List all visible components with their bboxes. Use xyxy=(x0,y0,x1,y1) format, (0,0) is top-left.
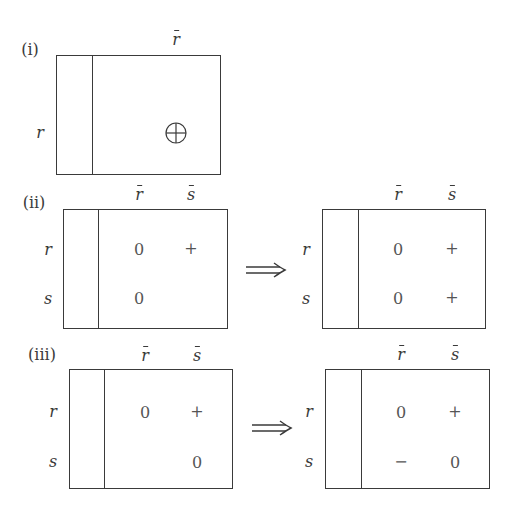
column-header-s-bar: s xyxy=(451,347,459,363)
cell-s-sbar: 0 xyxy=(192,455,202,471)
column-divider xyxy=(104,370,105,488)
circled-plus-icon xyxy=(165,122,187,144)
row-header-r: r xyxy=(36,125,44,141)
row-header-s: s xyxy=(49,454,57,470)
row-header-r: r xyxy=(302,242,310,258)
cell-s-rbar: 0 xyxy=(393,291,403,307)
column-header-r-bar: r xyxy=(397,347,405,363)
row-header-s: s xyxy=(305,454,313,470)
cell-r-rbar: 0 xyxy=(140,405,150,421)
column-header-s-bar: s xyxy=(193,348,201,364)
column-divider xyxy=(361,370,362,488)
row-header-r: r xyxy=(44,242,52,258)
panel-label: (i) xyxy=(21,42,39,58)
cell-r-sbar: + xyxy=(448,404,461,420)
cell-s-sbar: + xyxy=(445,290,458,306)
row-header-s: s xyxy=(44,291,52,307)
matrix-box xyxy=(56,55,221,175)
panel-label: (ii) xyxy=(23,195,46,211)
cell-r-rbar: 0 xyxy=(393,242,403,258)
panel-label: (iii) xyxy=(28,347,56,363)
cell-s-rbar: − xyxy=(394,454,407,470)
cell-r-rbar: 0 xyxy=(396,405,406,421)
column-header-r-bar: r xyxy=(172,32,180,48)
cell-r-sbar: + xyxy=(184,241,197,257)
implies-arrow-icon xyxy=(251,420,293,436)
cell-s-rbar: 0 xyxy=(134,291,144,307)
implies-arrow-icon xyxy=(245,262,287,278)
matrix-box-after xyxy=(325,369,490,489)
matrix-box-before xyxy=(69,369,233,489)
sign-pattern-diagram: (i) r r (ii) r s r s 0 + 0 xyxy=(0,0,519,514)
column-divider xyxy=(98,210,99,328)
column-header-s-bar: s xyxy=(187,187,195,203)
row-header-s: s xyxy=(302,291,310,307)
row-header-r: r xyxy=(49,404,57,420)
column-header-s-bar: s xyxy=(448,187,456,203)
column-divider xyxy=(358,210,359,328)
column-divider xyxy=(92,56,93,174)
cell-r-sbar: + xyxy=(190,404,203,420)
column-header-r-bar: r xyxy=(135,187,143,203)
column-header-r-bar: r xyxy=(141,348,149,364)
row-header-r: r xyxy=(305,404,313,420)
cell-r-rbar: 0 xyxy=(134,242,144,258)
matrix-box-before xyxy=(63,209,228,329)
cell-r-sbar: + xyxy=(445,241,458,257)
matrix-box-after xyxy=(322,209,486,329)
cell-s-sbar: 0 xyxy=(450,455,460,471)
column-header-r-bar: r xyxy=(394,187,402,203)
